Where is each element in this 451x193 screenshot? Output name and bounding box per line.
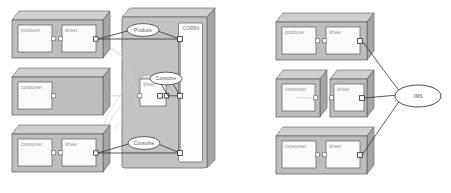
consume-mid-label: Consume (156, 76, 177, 81)
architecture-diagram: CORBA producer driver (0, 0, 451, 193)
component-top-face (12, 125, 110, 134)
node-label-consumer: consumer (285, 87, 307, 92)
port-driver-out[interactable] (94, 151, 98, 155)
component-top-face (276, 13, 374, 22)
corba-top-face (122, 8, 215, 17)
node-label-driver: driver (337, 87, 350, 92)
left-component-row-0: producer driver (12, 11, 110, 58)
node-label-producer: producer (285, 30, 305, 35)
component-top-face (330, 70, 374, 79)
port-driver-in[interactable] (323, 153, 327, 157)
node-label-consumer: consumer (21, 142, 43, 147)
port-driver-out[interactable] (94, 37, 98, 41)
jms-middleware[interactable]: JMS (395, 85, 441, 107)
bus-port-consume-bot[interactable] (178, 151, 183, 156)
figure-canvas: CORBA producer driver (0, 0, 451, 193)
corba-bus-rect (179, 23, 203, 162)
component-top-face (12, 11, 110, 20)
component-top-face (276, 70, 327, 79)
consume-bot-label: Consume (134, 141, 155, 146)
port-producer-out[interactable] (316, 39, 320, 43)
jms-label: JMS (413, 94, 423, 99)
component-top-face (12, 68, 110, 77)
consume-mid-left-port[interactable] (158, 93, 163, 98)
port-producer-out[interactable] (52, 37, 56, 41)
node-label-producer: producer (21, 28, 41, 33)
node-label-driver: driver (329, 30, 342, 35)
interface-consume-mid[interactable]: Consume (150, 72, 182, 85)
port-consumer-out[interactable] (52, 151, 56, 155)
port-consumer-out[interactable] (52, 94, 56, 98)
corba-label: CORBA (183, 26, 201, 31)
node-label-consumer: consumer (21, 85, 43, 90)
right-panel: producer driver consumer driver (276, 13, 441, 174)
produce-label: Produce (134, 28, 152, 33)
corba-side-face (207, 8, 215, 168)
left-component-row-2: consumer driver (12, 125, 110, 172)
port-driver-remote-in[interactable] (138, 94, 142, 98)
port-driver-in[interactable] (323, 39, 327, 43)
left-component-row-1: consumer (12, 68, 140, 115)
port-driver-out[interactable] (358, 153, 363, 158)
right-component-row-2: consumer driver (276, 127, 374, 174)
node-label-driver: driver (65, 28, 78, 33)
component-top-face (276, 127, 374, 136)
node-label-consumer: consumer (285, 144, 307, 149)
node-label-driver: driver (329, 144, 342, 149)
right-component-row-0: producer driver (276, 13, 374, 60)
bus-port-consume-mid[interactable] (178, 93, 183, 98)
right-component-row-1a: consumer (276, 70, 327, 117)
port-consumer-out[interactable] (316, 153, 320, 157)
interface-consume-bot[interactable]: Consume (128, 137, 160, 150)
port-driver-out[interactable] (358, 39, 363, 44)
port-driver-out[interactable] (360, 96, 365, 101)
left-panel: CORBA producer driver (12, 8, 215, 172)
interface-produce[interactable]: Produce (127, 24, 159, 37)
node-label-driver: driver (65, 142, 78, 147)
port-driver-in[interactable] (59, 151, 63, 155)
port-driver-in[interactable] (330, 96, 334, 100)
bus-port-produce[interactable] (178, 37, 183, 42)
port-driver-in[interactable] (59, 37, 63, 41)
port-consumer-out[interactable] (314, 96, 318, 100)
